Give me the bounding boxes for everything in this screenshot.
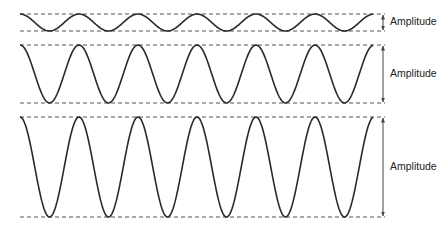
sine-wave — [20, 45, 373, 103]
sine-wave — [20, 117, 373, 217]
sine-wave — [20, 14, 373, 31]
amplitude-label-medium: Amplitude — [390, 67, 437, 79]
wave-group-medium — [20, 45, 385, 103]
wave-group-large — [20, 117, 385, 217]
wave-group-small — [20, 14, 385, 31]
amplitude-label-small: Amplitude — [390, 15, 437, 27]
amplitude-label-large: Amplitude — [390, 160, 437, 172]
amplitude-diagram — [0, 0, 448, 232]
